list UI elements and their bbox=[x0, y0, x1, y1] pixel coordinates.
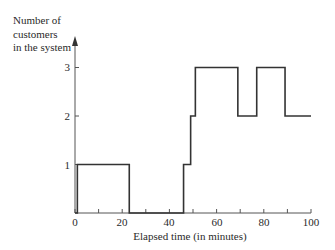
axes bbox=[72, 36, 311, 213]
chart-plot-area bbox=[0, 0, 335, 250]
step-series-line bbox=[75, 68, 311, 214]
y-axis-arrow-icon bbox=[72, 36, 78, 46]
